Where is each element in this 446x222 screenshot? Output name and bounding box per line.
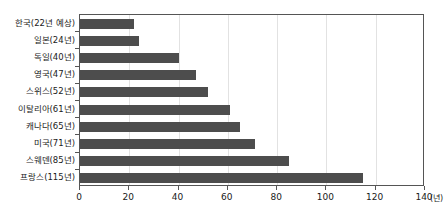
y-axis-tick <box>75 48 79 49</box>
y-axis-category-label: 일본(24년) <box>0 35 75 45</box>
y-axis-category-label: 한국(22년 예상) <box>0 18 75 28</box>
bar-row <box>80 173 423 183</box>
bar-row <box>80 139 423 149</box>
y-axis-tick <box>75 117 79 118</box>
y-axis-tick <box>75 134 79 135</box>
bar-row <box>80 70 423 80</box>
x-axis-tick <box>424 186 425 190</box>
bar-row <box>80 19 423 29</box>
y-axis-tick <box>75 169 79 170</box>
x-axis-tick-label: 60 <box>207 192 247 202</box>
x-axis-tick-label: 40 <box>158 192 198 202</box>
x-axis-tick-label: 100 <box>305 192 345 202</box>
x-axis-tick <box>79 186 80 190</box>
x-axis-tick <box>178 186 179 190</box>
x-axis-tick-label: 120 <box>355 192 395 202</box>
bar <box>80 70 196 80</box>
bar <box>80 122 240 132</box>
y-axis-category-label: 스웨덴(85년) <box>0 155 75 165</box>
bar-row <box>80 156 423 166</box>
bar-row <box>80 53 423 63</box>
x-axis-tick-label: 80 <box>256 192 296 202</box>
bar <box>80 173 363 183</box>
y-axis-tick <box>75 83 79 84</box>
y-axis-category-label: 이탈리아(61년) <box>0 104 75 114</box>
bar-row <box>80 36 423 46</box>
y-axis-tick <box>75 152 79 153</box>
bar <box>80 36 139 46</box>
bars-layer <box>80 15 423 185</box>
bar-chart: 한국(22년 예상)일본(24년)독일(40년)영국(47년)스위스(52년)이… <box>0 0 446 222</box>
bar <box>80 19 134 29</box>
bar-row <box>80 122 423 132</box>
y-axis-category-label: 캐나다(65년) <box>0 121 75 131</box>
y-axis-category-label: 독일(40년) <box>0 52 75 62</box>
bar <box>80 156 289 166</box>
x-axis-tick <box>128 186 129 190</box>
x-axis-tick-label: 0 <box>59 192 99 202</box>
bar <box>80 87 208 97</box>
y-axis-tick <box>75 66 79 67</box>
x-axis-tick <box>227 186 228 190</box>
bar <box>80 53 179 63</box>
y-axis-category-label: 프랑스(115년) <box>0 172 75 182</box>
x-axis-tick <box>375 186 376 190</box>
x-axis-tick-label: 20 <box>108 192 148 202</box>
x-axis-unit-label: (년) <box>430 192 443 203</box>
bar <box>80 105 230 115</box>
y-axis-category-label: 미국(71년) <box>0 138 75 148</box>
y-axis-category-label: 영국(47년) <box>0 69 75 79</box>
y-axis-tick <box>75 100 79 101</box>
x-axis-tick <box>276 186 277 190</box>
y-axis-labels: 한국(22년 예상)일본(24년)독일(40년)영국(47년)스위스(52년)이… <box>0 14 75 186</box>
bar-row <box>80 105 423 115</box>
y-axis-category-label: 스위스(52년) <box>0 86 75 96</box>
plot-area <box>79 14 424 186</box>
y-axis-tick <box>75 31 79 32</box>
bar <box>80 139 255 149</box>
x-axis-tick <box>325 186 326 190</box>
bar-row <box>80 87 423 97</box>
